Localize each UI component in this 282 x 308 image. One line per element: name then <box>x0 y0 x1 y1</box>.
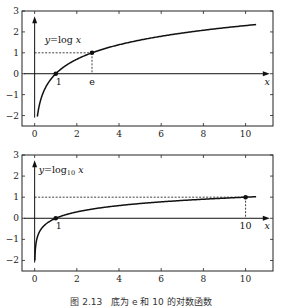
y-tick-label: 2 <box>13 27 19 37</box>
plot-frame <box>22 11 273 126</box>
y-tick-label: 0 <box>13 213 19 223</box>
x-tick-label: 6 <box>158 129 164 139</box>
x-tick-label: 10 <box>240 129 252 139</box>
x-tick-label: 8 <box>201 274 207 284</box>
y-tick-label: 1 <box>13 192 19 202</box>
function-label: y=log x <box>44 34 82 45</box>
point-label: 10 <box>240 220 252 231</box>
y-tick-label: 2 <box>13 171 19 181</box>
function-label: y=log10 x <box>38 164 84 177</box>
x-axis-label: x <box>265 76 271 87</box>
point-label: e <box>89 76 95 87</box>
x-tick-label: 2 <box>74 129 80 139</box>
x-tick-label: 4 <box>116 274 122 284</box>
figure-caption: 图 2.13 底为 e 和 10 的对数函数 <box>0 295 282 308</box>
y-tick-label: 0 <box>13 69 19 79</box>
x-tick-label: 10 <box>240 274 252 284</box>
chart-panel-1: 0246810−2−10123x1ey=log x <box>6 6 273 139</box>
log-curve <box>35 197 256 261</box>
y-axis-arrow-icon <box>32 16 37 23</box>
x-axis-label: x <box>265 220 271 231</box>
y-tick-label: −2 <box>6 255 19 265</box>
y-tick-label: −1 <box>6 90 19 100</box>
x-tick-label: 4 <box>116 129 122 139</box>
point-label: 1 <box>56 76 62 87</box>
x-tick-label: 8 <box>201 129 207 139</box>
x-tick-label: 6 <box>158 274 164 284</box>
y-tick-label: −2 <box>6 111 19 121</box>
x-tick-label: 0 <box>32 129 38 139</box>
y-tick-label: 3 <box>13 6 19 16</box>
x-tick-label: 0 <box>32 274 38 284</box>
chart-panel-2: 0246810−2−10123x110y=log10 x <box>6 150 273 284</box>
marked-point <box>243 195 248 200</box>
point-label: 1 <box>56 220 62 231</box>
y-tick-label: 3 <box>13 150 19 160</box>
x-tick-label: 2 <box>74 274 80 284</box>
y-tick-label: 1 <box>13 48 19 58</box>
marked-point <box>90 51 95 56</box>
y-tick-label: −1 <box>6 234 19 244</box>
y-axis-arrow-icon <box>32 160 37 167</box>
